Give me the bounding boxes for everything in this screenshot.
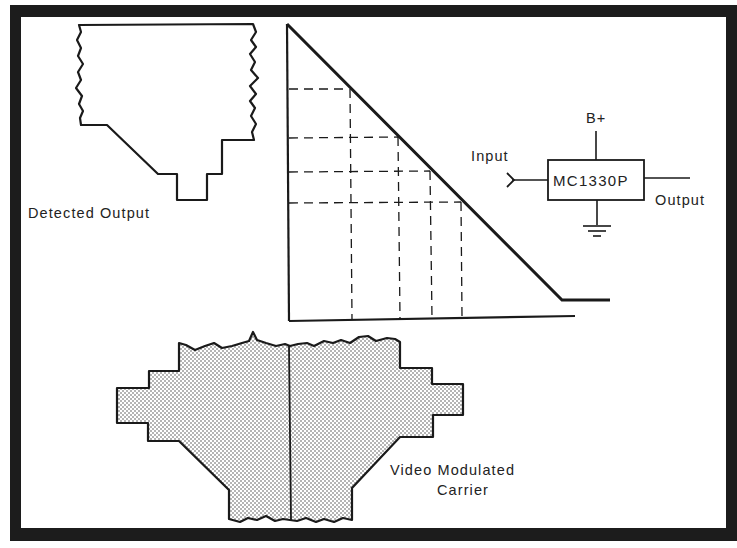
ic-label: MC1330P <box>553 173 629 188</box>
ground-icon <box>583 226 611 236</box>
supply-label: B+ <box>586 111 606 126</box>
video-modulated-carrier-envelope <box>117 332 463 522</box>
diagram-artwork <box>0 0 737 548</box>
detected-output-waveform <box>76 24 258 200</box>
input-arrow-icon <box>507 173 514 187</box>
carrier-label-line1: Video Modulated <box>390 463 515 478</box>
graph-x-axis <box>289 316 575 321</box>
dashed-projections <box>289 89 462 319</box>
output-label: Output <box>655 193 705 208</box>
detected-output-label: Detected Output <box>28 206 150 221</box>
carrier-label-line2: Carrier <box>437 483 489 498</box>
input-label: Input <box>471 149 509 164</box>
graph-y-axis <box>287 24 289 321</box>
